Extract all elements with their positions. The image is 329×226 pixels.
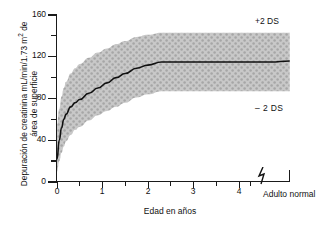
- y-tick-40: [48, 140, 57, 141]
- y-tick-20: [51, 160, 57, 161]
- x-tick-adult: [289, 170, 290, 182]
- y-tick-160: [48, 14, 57, 15]
- y-axis-title-line1-tail: de: [19, 22, 29, 34]
- y-axis-title-superscript: 2: [17, 33, 24, 37]
- y-axis-title: Depuración de creatinina mL/min/1.73 m2 …: [16, 16, 40, 192]
- x-tick-label-1: 1: [92, 186, 112, 196]
- y-axis-title-line1: Depuración de creatinina mL/min/1.73 m: [19, 37, 29, 186]
- y-tick-100: [51, 77, 57, 78]
- axis-break-icon: [255, 167, 275, 185]
- x-tick-2-5: [170, 182, 171, 186]
- annotation-minus-2-ds: – 2 DS: [255, 103, 283, 113]
- y-tick-140: [51, 35, 57, 36]
- y-tick-60: [51, 119, 57, 120]
- y-axis-title-line2: área de superficie: [29, 16, 40, 192]
- x-tick-4-25: [250, 182, 251, 186]
- x-tick-label-2: 2: [138, 186, 158, 196]
- creatinine-clearance-chart: 0 40 80 120 160 0 1 2 3 4 Adulto normal …: [0, 0, 329, 226]
- y-tick-80: [48, 98, 57, 99]
- x-tick-label-0: 0: [47, 186, 67, 196]
- x-tick-label-3: 3: [183, 186, 203, 196]
- annotation-plus-2-ds: +2 DS: [255, 16, 279, 26]
- x-tick-0-5: [79, 182, 80, 186]
- x-axis-break-label: Adulto normal: [263, 189, 315, 199]
- y-tick-120: [48, 56, 57, 57]
- x-axis-title: Edad en años: [110, 206, 230, 216]
- x-tick-1-5: [125, 182, 126, 186]
- x-tick-label-4: 4: [229, 186, 249, 196]
- x-tick-3-5: [216, 182, 217, 186]
